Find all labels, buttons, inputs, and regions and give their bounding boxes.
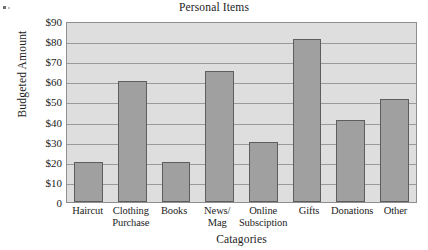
- x-axis-tick-labels: HaircutClothingPurchaseBooksNews/MagOnli…: [66, 205, 417, 229]
- x-axis-title: Catagories: [66, 233, 417, 245]
- bar: [162, 162, 191, 202]
- bar-slot: [372, 23, 416, 202]
- bar-slot: [111, 23, 155, 202]
- y-axis-tick-label: $70: [0, 57, 62, 68]
- plot-area: [66, 22, 417, 203]
- y-axis-tick-labels: 0$10$20$30$40$50$60$70$80$90: [0, 22, 62, 203]
- bar-slot: [329, 23, 373, 202]
- x-axis-tick-label: Donations: [331, 205, 374, 229]
- y-axis-tick-label: $90: [0, 17, 62, 28]
- bar-slot: [154, 23, 198, 202]
- x-axis-tick-label: Gifts: [287, 205, 330, 229]
- bar: [380, 99, 409, 202]
- x-axis-tick-label: News/Mag: [196, 205, 239, 229]
- y-axis-tick-label: $20: [0, 158, 62, 169]
- y-axis-tick-label: $40: [0, 118, 62, 129]
- bar: [249, 142, 278, 202]
- bars-layer: [67, 23, 416, 202]
- y-axis-tick-label: $30: [0, 138, 62, 149]
- bar: [118, 81, 147, 202]
- bar: [293, 39, 322, 202]
- x-axis-tick-label: ClothingPurchase: [109, 205, 152, 229]
- chart-title: Personal Items: [0, 1, 428, 13]
- x-axis-tick-label: Haircut: [66, 205, 109, 229]
- bar-slot: [198, 23, 242, 202]
- y-axis-tick-label: 0: [0, 198, 62, 209]
- x-axis-tick-label: Other: [374, 205, 417, 229]
- x-axis-tick-label: Books: [152, 205, 195, 229]
- bar: [205, 71, 234, 202]
- y-axis-tick-label: $80: [0, 37, 62, 48]
- y-axis-tick-label: $10: [0, 178, 62, 189]
- bar-slot: [67, 23, 111, 202]
- bar-slot: [242, 23, 286, 202]
- y-axis-tick-label: $60: [0, 77, 62, 88]
- bar: [74, 162, 103, 202]
- y-axis-tick-label: $50: [0, 97, 62, 108]
- x-axis-tick-label: OnlineSubsciption: [239, 205, 288, 229]
- bar-slot: [285, 23, 329, 202]
- bar: [336, 120, 365, 202]
